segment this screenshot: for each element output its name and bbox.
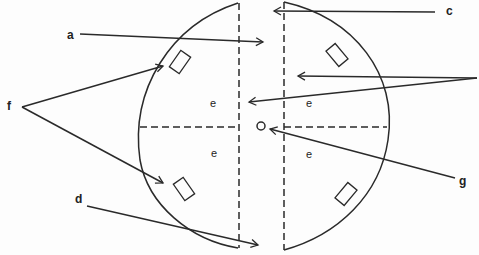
label-e-top-left: e <box>210 98 216 109</box>
label-f: f <box>7 101 11 112</box>
arrow-f-bottom <box>22 107 163 183</box>
label-g: g <box>459 176 466 187</box>
probe-top-right <box>326 43 348 66</box>
probe-bottom-right <box>335 182 357 205</box>
arrow-a <box>80 34 263 42</box>
label-d: d <box>75 194 82 205</box>
label-e-bottom-left: e <box>211 148 217 159</box>
arrow-g <box>270 129 455 178</box>
probe-top-left <box>169 50 190 73</box>
arrow-f-top <box>22 66 163 107</box>
label-e-top-right: e <box>306 98 312 109</box>
center-source-circle <box>257 122 265 130</box>
label-a: a <box>67 30 74 41</box>
label-e-bottom-right: e <box>306 149 312 160</box>
right-dee-arc <box>284 2 389 250</box>
diagram-canvas: a c d f g e e e e <box>0 0 479 255</box>
label-c: c <box>446 6 453 17</box>
arrow-c <box>274 11 435 12</box>
probe-bottom-left <box>173 177 194 200</box>
arrow-d <box>87 206 258 245</box>
arrow-b-upper <box>298 76 477 78</box>
arrow-b-lower <box>249 78 477 102</box>
